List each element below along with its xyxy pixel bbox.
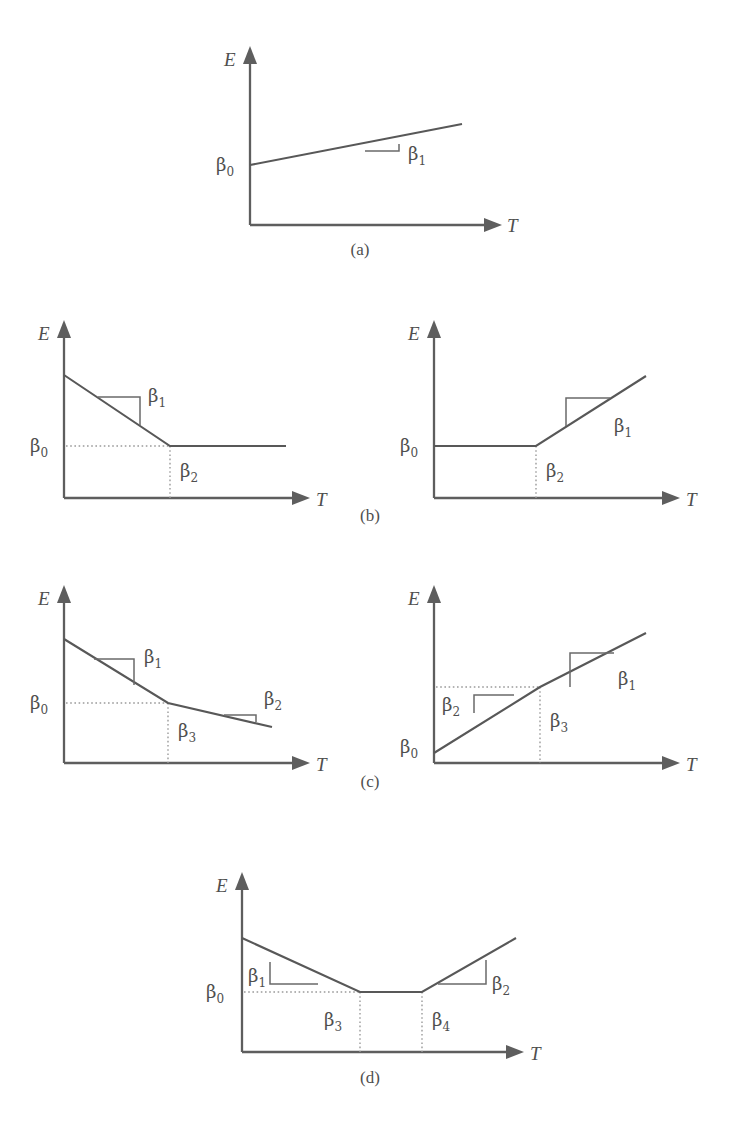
panel-c-caption: (c) bbox=[330, 772, 410, 792]
panel-c-right-x-axis-label: T bbox=[686, 754, 698, 775]
panel-d-beta1-label: β1 bbox=[248, 965, 266, 990]
panel-c-left-slope-triangle-1 bbox=[94, 659, 134, 685]
panel-c-right-beta0-label: β0 bbox=[400, 736, 418, 761]
panel-c-right-beta1-label: β1 bbox=[618, 668, 636, 693]
panel-d-beta0-label: β0 bbox=[206, 981, 224, 1006]
panel-a-slope-triangle bbox=[365, 144, 399, 151]
panel-b-left-regression-line bbox=[64, 375, 286, 446]
panel-a-x-axis-label: T bbox=[507, 215, 519, 236]
panel-c-right-regression-line bbox=[434, 633, 646, 753]
panel-c-right-x-arrowhead bbox=[662, 756, 680, 770]
panel-b-caption: (b) bbox=[330, 506, 410, 526]
panel-c-right-beta3-label: β3 bbox=[550, 710, 568, 735]
panel-a-regression-line bbox=[250, 124, 462, 165]
panel-d-y-axis-label: E bbox=[215, 875, 228, 896]
panel-d-beta3-label: β3 bbox=[324, 1009, 342, 1034]
panel-b-right-beta1-label: β1 bbox=[614, 415, 632, 440]
panel-c-right: E T β0 β1 β2 β3 bbox=[398, 575, 718, 780]
panel-b-right-x-axis-label: T bbox=[686, 489, 698, 510]
panel-b-left-beta0-label: β0 bbox=[30, 435, 48, 460]
panel-c-left-beta0-label: β0 bbox=[30, 692, 48, 717]
panel-b-left-y-arrowhead bbox=[57, 320, 71, 338]
panel-c-right-slope-triangle-1 bbox=[570, 653, 614, 687]
panel-a-caption: (a) bbox=[320, 240, 400, 260]
panel-d-caption: (d) bbox=[330, 1068, 410, 1088]
panel-c-right-slope-triangle-2 bbox=[474, 695, 514, 713]
panel-a-x-arrowhead bbox=[484, 218, 502, 232]
panel-b-right-x-arrowhead bbox=[662, 491, 680, 505]
panel-a-y-axis-label: E bbox=[223, 49, 236, 70]
panel-c-right-y-axis-label: E bbox=[407, 588, 420, 609]
panel-c-left-x-arrowhead bbox=[292, 756, 310, 770]
panel-b-right-y-arrowhead bbox=[427, 320, 441, 338]
panel-a-y-arrowhead bbox=[243, 46, 257, 64]
panel-b-left-beta1-label: β1 bbox=[148, 385, 166, 410]
panel-d-y-arrowhead bbox=[235, 872, 249, 890]
panel-b-right-y-axis-label: E bbox=[407, 323, 420, 344]
panel-d-slope-triangle-1 bbox=[270, 962, 318, 984]
panel-c-left-y-axis-label: E bbox=[37, 588, 50, 609]
panel-d-beta2-label: β2 bbox=[492, 973, 510, 998]
panel-c-right-y-arrowhead bbox=[427, 585, 441, 603]
panel-b-right: E T β0 β1 β2 bbox=[398, 310, 718, 515]
panel-c-left-beta3-label: β3 bbox=[178, 720, 196, 745]
panel-c-left: E T β0 β1 β2 β3 bbox=[28, 575, 348, 780]
panel-b-right-beta2-label: β2 bbox=[546, 460, 564, 485]
panel-b-left-y-axis-label: E bbox=[37, 323, 50, 344]
panel-a-beta1-label: β1 bbox=[408, 143, 426, 168]
panel-c-left-x-axis-label: T bbox=[316, 754, 328, 775]
panel-c-left-regression-line bbox=[64, 639, 272, 727]
panel-c-right-beta2-label: β2 bbox=[442, 694, 460, 719]
panel-b-right-beta0-label: β0 bbox=[400, 435, 418, 460]
panel-a: E T β0 β1 bbox=[210, 38, 510, 238]
panel-b-left-x-arrowhead bbox=[292, 491, 310, 505]
panel-d-beta4-label: β4 bbox=[432, 1009, 450, 1034]
panel-b-left-beta2-label: β2 bbox=[180, 460, 198, 485]
panel-c-left-beta2-label: β2 bbox=[264, 688, 282, 713]
panel-c-left-y-arrowhead bbox=[57, 585, 71, 603]
panel-d-x-arrowhead bbox=[506, 1045, 524, 1059]
panel-b-left-x-axis-label: T bbox=[316, 489, 328, 510]
panel-d-slope-triangle-2 bbox=[438, 960, 486, 984]
panel-c-left-beta1-label: β1 bbox=[144, 646, 162, 671]
panel-d: E T β0 β1 β2 β3 β4 bbox=[200, 862, 560, 1072]
panel-a-beta0-label: β0 bbox=[216, 154, 234, 179]
panel-b-left: E T β0 β1 β2 bbox=[28, 310, 348, 515]
figure-panel-grid: E T β0 β1 (a) E T β0 β1 β2 bbox=[0, 0, 740, 1135]
panel-d-x-axis-label: T bbox=[530, 1043, 542, 1064]
